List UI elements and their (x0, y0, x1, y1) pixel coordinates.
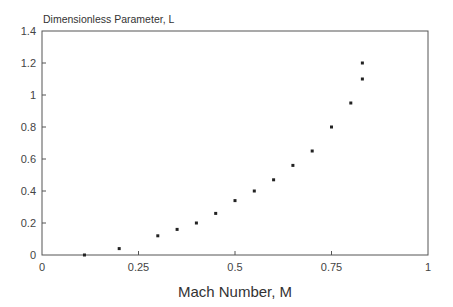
data-points (83, 62, 364, 257)
y-tick-label: 1.4 (21, 25, 36, 37)
x-tick-label: 0.5 (227, 261, 242, 273)
data-point (361, 78, 364, 81)
y-tick-label: 1 (30, 89, 36, 101)
y-tick-label: 0.2 (21, 217, 36, 229)
data-point (176, 228, 179, 231)
data-point (156, 234, 159, 237)
data-point (234, 199, 237, 202)
y-tick-label: 0.4 (21, 185, 36, 197)
scatter-chart: Dimensionless Parameter, L 00.20.40.60.8… (0, 0, 453, 307)
data-point (118, 247, 121, 250)
y-tick-label: 0 (30, 249, 36, 261)
y-tick-label: 0.6 (21, 153, 36, 165)
data-point (349, 102, 352, 105)
x-axis-ticks: 00.250.50.751 (39, 251, 431, 273)
y-axis-title: Dimensionless Parameter, L (43, 13, 174, 25)
x-tick-label: 0 (39, 261, 45, 273)
data-point (83, 254, 86, 257)
data-point (214, 212, 217, 215)
data-point (361, 62, 364, 65)
y-tick-label: 0.8 (21, 121, 36, 133)
data-point (330, 126, 333, 129)
plot-frame (42, 31, 428, 255)
x-tick-label: 0.25 (128, 261, 149, 273)
data-point (311, 150, 314, 153)
x-tick-label: 1 (425, 261, 431, 273)
x-tick-label: 0.75 (321, 261, 342, 273)
data-point (291, 164, 294, 167)
data-point (195, 222, 198, 225)
x-axis-title: Mach Number, M (178, 283, 292, 300)
y-tick-label: 1.2 (21, 57, 36, 69)
data-point (272, 178, 275, 181)
data-point (253, 190, 256, 193)
